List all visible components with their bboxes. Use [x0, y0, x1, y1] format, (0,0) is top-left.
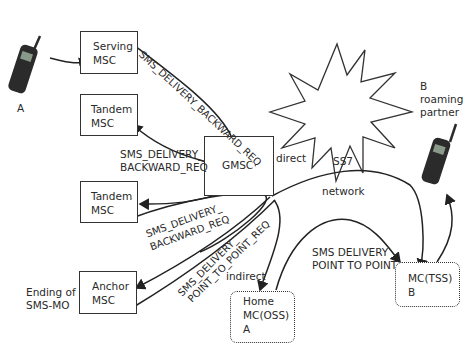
- serving-msc-line2: MSC: [93, 54, 116, 67]
- phone-a-label: A: [17, 102, 24, 115]
- tandem-msc-2-line2: MSC: [91, 204, 114, 217]
- indirect-label: indirect: [226, 270, 266, 283]
- phone-a-icon: [7, 36, 40, 95]
- mc-tss-line2: B: [408, 286, 415, 299]
- tandem-msc-1-line2: MSC: [91, 117, 114, 130]
- sms-p2p-line2: POINT TO POINT: [312, 259, 397, 272]
- home-mc-line3: A: [243, 323, 250, 336]
- mc-tss-box: MC(TSS) B: [395, 262, 460, 307]
- home-mc-line1: Home: [243, 295, 274, 308]
- phone-b-line1: B: [420, 80, 427, 93]
- ending-line2: SMS-MO: [26, 299, 70, 312]
- phone-b-icon: [420, 124, 456, 186]
- tandem-msc-2-box: Tandem MSC: [80, 181, 138, 223]
- tandem-msc-2-line1: Tandem: [91, 190, 132, 203]
- anchor-msc-line1: Anchor: [92, 280, 129, 293]
- network-label: network: [322, 185, 365, 198]
- ending-line1: Ending of: [26, 286, 76, 299]
- serving-msc-box: Serving MSC: [80, 31, 138, 74]
- home-mc-line2: MC(OSS): [243, 309, 289, 322]
- sms-p2p-line1: SMS DELIVERY: [312, 246, 388, 259]
- home-mc-box: Home MC(OSS) A: [230, 291, 295, 343]
- tandem-msc-1-line1: Tandem: [91, 103, 132, 116]
- tandem-msc-1-box: Tandem MSC: [80, 94, 138, 136]
- phone-b-line2: roaming: [420, 93, 463, 106]
- mc-tss-line1: MC(TSS): [408, 272, 452, 285]
- backward-req-mid-line2: BACKWARD_REQ: [120, 161, 208, 174]
- backward-req-mid-line1: SMS_DELIVERY_: [120, 148, 203, 161]
- phone-b-line3: partner: [420, 106, 459, 119]
- direct-label: direct: [276, 152, 306, 165]
- serving-msc-line1: Serving: [93, 40, 133, 53]
- anchor-msc-line2: MSC: [92, 294, 115, 307]
- anchor-msc-box: Anchor MSC: [79, 271, 137, 314]
- ss7-label: SS7: [333, 155, 353, 168]
